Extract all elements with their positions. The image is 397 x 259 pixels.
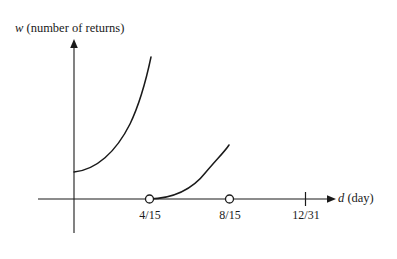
graph-figure: w (number of returns) d (day) 4/15 8/15 … (0, 0, 397, 259)
x-tick-label-4-15: 4/15 (139, 209, 160, 221)
open-circle-marker-4-15 (146, 195, 154, 203)
y-axis-label: w (number of returns) (15, 22, 124, 35)
x-axis-label: d (day) (338, 192, 374, 205)
curve-branch-2 (149, 145, 229, 199)
curve-branch-1 (74, 57, 151, 172)
y-axis-arrow-icon (70, 39, 78, 48)
x-axis-arrow-icon (327, 195, 336, 203)
plot-area (0, 0, 397, 259)
y-axis-description: (number of returns) (26, 21, 124, 35)
y-axis-variable: w (15, 21, 23, 35)
x-axis-variable: d (338, 191, 344, 205)
x-axis-description: (day) (347, 191, 373, 205)
x-tick-label-8-15: 8/15 (219, 209, 240, 221)
open-circle-marker-8-15 (226, 195, 234, 203)
x-tick-label-12-31: 12/31 (292, 209, 319, 221)
